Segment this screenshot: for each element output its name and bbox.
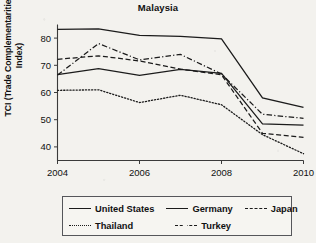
y-axis-ticks: 4050607080 xyxy=(40,33,57,153)
legend-entry-japan[interactable]: Japan xyxy=(245,204,298,214)
legend-label-united-states: United States xyxy=(95,204,154,214)
series-line-turkey xyxy=(58,44,304,119)
y-tick-label: 80 xyxy=(40,33,51,44)
x-tick-label: 2010 xyxy=(293,167,314,178)
y-tick-label: 70 xyxy=(40,60,51,71)
legend-swatch-line-icon xyxy=(166,205,188,213)
y-tick-label: 60 xyxy=(40,87,51,98)
figure: Malaysia TCI (Trade Complementarities In… xyxy=(0,0,316,243)
y-tick-label: 50 xyxy=(40,114,51,125)
series-line-germany xyxy=(58,69,304,126)
legend-entry-germany[interactable]: Germany xyxy=(166,204,232,214)
legend-row-1: United States Germany Japan xyxy=(69,200,285,217)
legend-entry-thailand[interactable]: Thailand xyxy=(69,221,133,231)
legend-label-thailand: Thailand xyxy=(95,221,133,231)
series-lines xyxy=(58,29,304,154)
x-tick-label: 2004 xyxy=(47,167,68,178)
legend-swatch-dashed-icon xyxy=(245,205,267,213)
legend-label-germany: Germany xyxy=(192,204,232,214)
axis-frame xyxy=(58,25,304,161)
legend-swatch-line-icon xyxy=(69,205,91,213)
x-axis-ticks: 2004200620082010 xyxy=(47,161,314,178)
series-line-japan xyxy=(58,56,304,138)
legend: United States Germany Japan Thailand Tur… xyxy=(62,196,292,236)
legend-label-turkey: Turkey xyxy=(201,221,231,231)
legend-entry-turkey[interactable]: Turkey xyxy=(175,221,231,231)
legend-row-2: Thailand Turkey xyxy=(69,217,285,234)
x-tick-label: 2006 xyxy=(129,167,150,178)
legend-label-japan: Japan xyxy=(271,204,298,214)
x-tick-label: 2008 xyxy=(211,167,232,178)
legend-entry-united-states[interactable]: United States xyxy=(69,204,154,214)
y-tick-label: 40 xyxy=(40,141,51,152)
legend-swatch-dashdot-icon xyxy=(175,222,197,230)
legend-swatch-dotted-icon xyxy=(69,222,91,230)
